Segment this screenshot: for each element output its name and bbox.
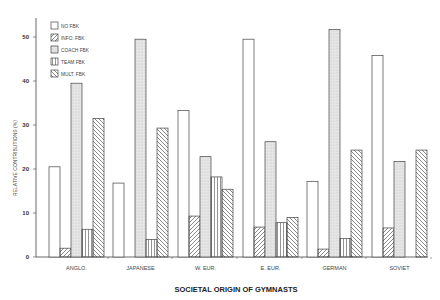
bar — [351, 150, 362, 257]
bars: ANGLO.JAPANESEW. EUR.E. EUR.GERMANSOVIET — [49, 30, 431, 271]
x-tick-label: W. EUR. — [195, 265, 217, 271]
bar — [383, 228, 394, 257]
legend-item: TEAM FBK — [51, 58, 86, 65]
bar — [60, 248, 71, 257]
grouped-bar-chart: 01020304050 ANGLO.JAPANESEW. EUR.E. EUR.… — [0, 0, 440, 300]
legend-item: NO FBK — [51, 22, 80, 29]
x-tick-label: SOVIET — [389, 265, 410, 271]
legend-label: INFO. FBK — [61, 36, 85, 41]
legend-label: MULT. FBK — [61, 72, 86, 77]
bar — [82, 229, 93, 257]
y-tick-label: 30 — [22, 122, 29, 128]
bar — [394, 162, 405, 257]
bar — [243, 39, 254, 257]
bar — [135, 39, 146, 257]
x-axis-label: SOCIETAL ORIGIN OF GYMNASTS — [174, 285, 297, 294]
bar — [93, 118, 104, 257]
y-tick-label: 50 — [22, 34, 29, 40]
bar — [178, 110, 189, 257]
bar — [307, 181, 318, 257]
bar — [340, 239, 351, 257]
legend: NO FBKINFO. FBKCOACH FBKTEAM FBKMULT. FB… — [51, 22, 90, 77]
bar — [222, 189, 233, 257]
legend-swatch-icon — [51, 58, 58, 65]
bar — [146, 239, 157, 257]
legend-item: COACH FBK — [51, 46, 90, 53]
bar-group: E. EUR. — [243, 39, 302, 271]
bar — [287, 217, 298, 257]
bar — [416, 150, 427, 257]
legend-item: MULT. FBK — [51, 70, 86, 77]
y-axis-label: RELATIVE CONTRIBUTIONS (%) — [12, 120, 18, 196]
legend-swatch-icon — [51, 22, 58, 29]
x-tick-label: ANGLO. — [66, 265, 87, 271]
bar — [329, 30, 340, 257]
bar-group: W. EUR. — [178, 110, 237, 271]
legend-label: COACH FBK — [61, 48, 90, 53]
legend-swatch-icon — [51, 34, 58, 41]
y-tick-label: 10 — [22, 210, 29, 216]
bar — [189, 216, 200, 257]
legend-swatch-icon — [51, 70, 58, 77]
x-tick-label: GERMAN — [322, 265, 346, 271]
bar — [211, 177, 222, 257]
x-tick-label: JAPANESE — [126, 265, 155, 271]
bar — [200, 157, 211, 257]
bar-group: JAPANESE — [113, 39, 172, 271]
legend-label: NO FBK — [61, 24, 80, 29]
y-tick-label: 40 — [22, 78, 29, 84]
y-tick-label: 0 — [26, 254, 30, 260]
y-tick-label: 20 — [22, 166, 29, 172]
bar — [372, 55, 383, 257]
bar — [71, 83, 82, 257]
bar — [276, 223, 287, 257]
x-tick-label: E. EUR. — [261, 265, 281, 271]
legend-swatch-icon — [51, 46, 58, 53]
bar-group: ANGLO. — [49, 83, 108, 271]
bar-group: GERMAN — [307, 30, 366, 271]
bar — [49, 167, 60, 257]
bar — [113, 183, 124, 257]
bar — [265, 142, 276, 257]
bar-group: SOVIET — [372, 55, 431, 271]
bar — [157, 128, 168, 257]
bar — [318, 249, 329, 257]
bar — [254, 227, 265, 257]
legend-label: TEAM FBK — [61, 60, 86, 65]
legend-item: INFO. FBK — [51, 34, 85, 41]
